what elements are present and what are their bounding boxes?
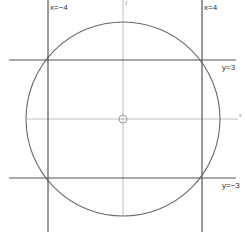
label-x-neg-4: x=−4 [50,3,68,12]
diagram-canvas: x y x=−4 x=4 y=3 y=−3 [0,0,245,244]
label-y-pos-3: y=3 [222,63,236,72]
y-axis-label: y [125,0,128,5]
label-y-neg-3: y=−3 [222,181,240,190]
x-axis-label: x [239,112,242,118]
label-x-pos-4: x=4 [204,3,218,12]
